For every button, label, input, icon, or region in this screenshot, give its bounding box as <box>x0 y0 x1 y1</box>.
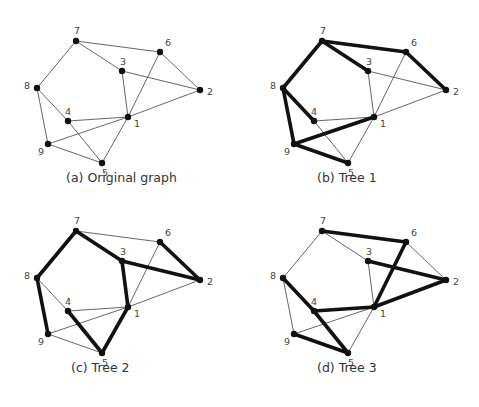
node-1 <box>125 114 131 120</box>
node-4 <box>311 308 317 314</box>
node-label-9: 9 <box>38 146 44 157</box>
node-2 <box>197 277 203 283</box>
edge-3-2 <box>122 71 200 90</box>
node-4 <box>65 118 71 124</box>
node-3 <box>365 258 371 264</box>
node-label-8: 8 <box>270 270 276 281</box>
node-3 <box>119 68 125 74</box>
edge-7-3 <box>76 41 122 71</box>
node-1 <box>371 114 377 120</box>
node-8 <box>34 275 40 281</box>
edge-1-5 <box>102 117 128 163</box>
caption-original-graph: (a) Original graph <box>66 170 177 185</box>
node-label-4: 4 <box>311 106 317 117</box>
caption-tree-1: (b) Tree 1 <box>317 170 377 185</box>
node-label-6: 6 <box>411 37 417 48</box>
node-label-9: 9 <box>284 336 290 347</box>
node-label-8: 8 <box>270 80 276 91</box>
node-4 <box>311 118 317 124</box>
node-label-6: 6 <box>165 37 171 48</box>
edge-6-2 <box>160 52 200 90</box>
panel-tree-1: 123456789 (b) Tree 1 <box>240 0 479 200</box>
edge-8-9 <box>37 88 48 144</box>
node-label-2: 2 <box>453 86 459 97</box>
edge-8-4 <box>37 88 68 121</box>
node-label-1: 1 <box>380 118 386 129</box>
node-label-2: 2 <box>453 276 459 287</box>
tree-edge-9-1 <box>294 117 374 144</box>
node-label-7: 7 <box>74 25 80 36</box>
caption-tree-2: (c) Tree 2 <box>71 360 130 375</box>
node-9 <box>45 331 51 337</box>
tree-edge-8-4 <box>283 278 314 311</box>
node-6 <box>157 49 163 55</box>
panel-original-graph: 123456789 (a) Original graph <box>0 0 240 200</box>
tree-edge-7-8 <box>37 231 76 278</box>
node-8 <box>34 85 40 91</box>
node-8 <box>280 275 286 281</box>
node-7 <box>319 228 325 234</box>
node-label-4: 4 <box>65 296 71 307</box>
tree-edge-7-3 <box>76 231 122 261</box>
node-2 <box>443 277 449 283</box>
node-label-3: 3 <box>366 56 372 67</box>
caption-tree-3: (d) Tree 3 <box>317 360 377 375</box>
node-label-1: 1 <box>380 308 386 319</box>
node-2 <box>197 87 203 93</box>
edge-3-1 <box>368 71 374 117</box>
node-9 <box>291 141 297 147</box>
panel-tree-2: 123456789 (c) Tree 2 <box>0 190 240 407</box>
tree-edge-3-2 <box>368 261 446 280</box>
node-label-3: 3 <box>120 56 126 67</box>
tree-edge-7-8 <box>283 41 322 88</box>
node-label-2: 2 <box>207 276 213 287</box>
node-8 <box>280 85 286 91</box>
node-7 <box>319 38 325 44</box>
edge-3-1 <box>368 261 374 307</box>
edge-7-8 <box>283 231 322 278</box>
node-label-4: 4 <box>65 106 71 117</box>
node-label-8: 8 <box>24 270 30 281</box>
node-label-7: 7 <box>320 25 326 36</box>
node-6 <box>403 49 409 55</box>
node-6 <box>403 239 409 245</box>
edge-7-6 <box>76 41 160 52</box>
node-7 <box>73 38 79 44</box>
tree-edge-3-1 <box>122 261 128 307</box>
edge-9-1 <box>48 117 128 144</box>
node-7 <box>73 228 79 234</box>
node-label-8: 8 <box>24 80 30 91</box>
node-1 <box>371 304 377 310</box>
panel-tree-3: 123456789 (d) Tree 3 <box>240 190 479 407</box>
tree-edge-6-2 <box>406 52 446 90</box>
edge-1-5 <box>348 307 374 353</box>
node-label-7: 7 <box>74 215 80 226</box>
node-label-1: 1 <box>134 308 140 319</box>
node-label-9: 9 <box>284 146 290 157</box>
node-5 <box>99 160 105 166</box>
tree-edge-1-5 <box>102 307 128 353</box>
node-label-9: 9 <box>38 336 44 347</box>
node-3 <box>365 68 371 74</box>
node-9 <box>45 141 51 147</box>
node-label-3: 3 <box>366 246 372 257</box>
tree-edge-8-9 <box>37 278 48 334</box>
tree-edge-7-6 <box>322 231 406 242</box>
node-9 <box>291 331 297 337</box>
node-label-1: 1 <box>134 118 140 129</box>
node-label-4: 4 <box>311 296 317 307</box>
node-6 <box>157 239 163 245</box>
node-3 <box>119 258 125 264</box>
node-label-2: 2 <box>207 86 213 97</box>
node-2 <box>443 87 449 93</box>
node-5 <box>345 160 351 166</box>
node-4 <box>65 308 71 314</box>
edge-7-8 <box>37 41 76 88</box>
node-label-6: 6 <box>165 227 171 238</box>
node-1 <box>125 304 131 310</box>
edge-3-1 <box>122 71 128 117</box>
node-5 <box>345 350 351 356</box>
node-5 <box>99 350 105 356</box>
node-label-3: 3 <box>120 246 126 257</box>
node-label-7: 7 <box>320 215 326 226</box>
